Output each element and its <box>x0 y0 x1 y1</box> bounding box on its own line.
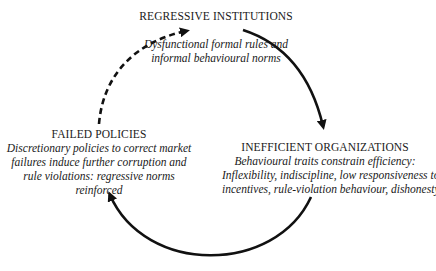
node-title: FAILED POLICIES <box>0 127 198 141</box>
node-inefficient-organizations: INEFFICIENT ORGANIZATIONS Behavioural tr… <box>222 140 428 196</box>
description-line: Inflexibility, indiscipline, low respons… <box>222 168 428 182</box>
description-line: incentives, rule-violation behaviour, di… <box>222 182 428 196</box>
description-line: Behavioural traits constrain efficiency: <box>222 154 428 168</box>
cycle-diagram: REGRESSIVE INSTITUTIONS Dysfunctional fo… <box>0 0 436 271</box>
node-title: INEFFICIENT ORGANIZATIONS <box>222 140 428 154</box>
node-regressive-institutions: REGRESSIVE INSTITUTIONS Dysfunctional fo… <box>116 9 316 65</box>
description-line: informal behavioural norms <box>116 51 316 65</box>
node-description: Behavioural traits constrain efficiency:… <box>222 154 428 196</box>
node-description: Discretionary policies to correct market… <box>0 141 198 197</box>
description-line: reinforced <box>0 183 198 197</box>
arrow-organizations-to-policies <box>110 195 311 255</box>
node-description: Dysfunctional formal rules and informal … <box>116 37 316 65</box>
description-line: Dysfunctional formal rules and <box>116 37 316 51</box>
description-line: rule violations: regressive norms <box>0 169 198 183</box>
description-line: Discretionary policies to correct market <box>0 141 198 155</box>
description-line: failures induce further corruption and <box>0 155 198 169</box>
node-failed-policies: FAILED POLICIES Discretionary policies t… <box>0 127 198 197</box>
node-title: REGRESSIVE INSTITUTIONS <box>116 9 316 23</box>
